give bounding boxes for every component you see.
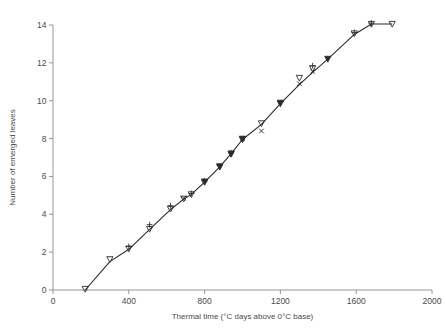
y-tick-label: 6: [42, 171, 47, 181]
y-tick-label: 10: [37, 96, 47, 106]
x-tick-label: 1200: [271, 296, 290, 306]
y-tick-label: 14: [37, 20, 47, 30]
y-tick-label: 0: [42, 285, 47, 295]
x-axis-title: Thermal time (°C days above 0°C base): [172, 312, 314, 321]
data-point-cross: [259, 129, 264, 134]
fitted-line: [85, 24, 392, 290]
y-axis-title: Number of emerged leaves: [8, 109, 17, 206]
y-tick-label: 12: [37, 58, 47, 68]
y-tick-label: 2: [42, 247, 47, 257]
x-tick-label: 800: [198, 296, 212, 306]
x-tick-label: 1600: [347, 296, 366, 306]
y-tick-label: 4: [42, 209, 47, 219]
leaf-emergence-chart: 040080012001600200002468101214Thermal ti…: [0, 0, 446, 329]
data-point-triangle-down: [296, 75, 302, 81]
x-tick-label: 0: [51, 296, 56, 306]
x-tick-label: 400: [122, 296, 136, 306]
x-tick-label: 2000: [423, 296, 442, 306]
y-tick-label: 8: [42, 134, 47, 144]
